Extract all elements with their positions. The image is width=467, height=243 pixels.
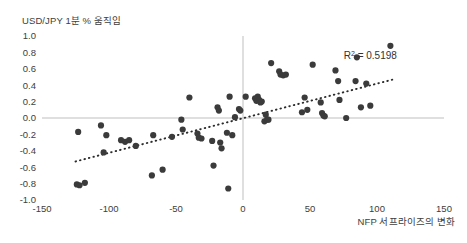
data-point xyxy=(224,130,230,136)
x-tick-label: -100 xyxy=(99,203,118,214)
data-point xyxy=(218,145,224,151)
y-tick-label: 0.2 xyxy=(23,96,36,107)
data-point xyxy=(126,137,132,143)
x-tick-labels: -150-100-50050100150 xyxy=(32,203,451,214)
data-point xyxy=(332,67,338,73)
data-point xyxy=(217,140,223,146)
data-point xyxy=(318,99,324,105)
data-point xyxy=(363,80,369,86)
data-point xyxy=(229,132,235,138)
data-points xyxy=(74,43,394,192)
data-point xyxy=(259,99,265,105)
data-point xyxy=(265,117,271,123)
data-point xyxy=(75,129,81,135)
scatter-chart: USD/JPY 1분 % 움직임 NFP 서프라이즈의 변화 1.00.80.6… xyxy=(0,0,467,243)
data-point xyxy=(283,71,289,77)
data-point xyxy=(82,180,88,186)
data-point xyxy=(358,104,364,110)
y-tick-label: -0.8 xyxy=(20,178,36,189)
data-point xyxy=(225,185,231,191)
y-tick-label: 0.8 xyxy=(23,47,36,58)
y-tick-labels: 1.00.80.60.40.20.0-0.2-0.4-0.6-0.8-1.0 xyxy=(20,30,36,205)
data-point xyxy=(76,182,82,188)
data-point xyxy=(387,43,393,49)
data-point xyxy=(103,132,109,138)
data-point xyxy=(101,149,107,155)
x-tick-label: 100 xyxy=(369,203,385,214)
y-tick-label: -0.2 xyxy=(20,129,36,140)
data-point xyxy=(178,117,184,123)
data-point xyxy=(216,108,222,114)
data-point xyxy=(310,62,316,68)
y-tick-label: 1.0 xyxy=(23,30,36,41)
x-tick-label: 0 xyxy=(240,203,245,214)
y-tick-label: 0.4 xyxy=(23,80,36,91)
x-tick-label: -50 xyxy=(169,203,183,214)
data-point xyxy=(133,143,139,149)
data-point xyxy=(367,103,373,109)
data-point xyxy=(322,113,328,119)
data-point xyxy=(352,78,358,84)
data-point xyxy=(98,122,104,128)
data-point xyxy=(198,135,204,141)
data-point xyxy=(186,94,192,100)
data-point xyxy=(210,162,216,168)
data-point xyxy=(209,138,215,144)
y-tick-label: 0.0 xyxy=(23,112,36,123)
data-point xyxy=(169,134,175,140)
data-point xyxy=(160,167,166,173)
r-squared-annotation: R2 = 0.5198 xyxy=(344,50,398,61)
data-point xyxy=(227,94,233,100)
data-point xyxy=(335,78,341,84)
data-point xyxy=(149,172,155,178)
data-point xyxy=(302,94,308,100)
plot-area: 1.00.80.60.40.20.0-0.2-0.4-0.6-0.8-1.0 -… xyxy=(0,0,467,243)
data-point xyxy=(268,60,274,66)
data-point xyxy=(336,97,342,103)
data-point xyxy=(243,94,249,100)
data-point xyxy=(237,108,243,114)
y-tick-label: -0.6 xyxy=(20,162,36,173)
data-point xyxy=(232,114,238,120)
x-tick-label: 150 xyxy=(436,203,452,214)
x-tick-label: -150 xyxy=(32,203,51,214)
data-point xyxy=(299,109,305,115)
data-point xyxy=(343,115,349,121)
x-tick-label: 50 xyxy=(305,203,316,214)
data-point xyxy=(150,132,156,138)
r-squared-text: R2 = 0.5198 xyxy=(344,50,398,61)
data-point xyxy=(180,126,186,132)
y-tick-label: -0.4 xyxy=(20,145,36,156)
data-point xyxy=(304,107,310,113)
y-tick-label: 0.6 xyxy=(23,63,36,74)
